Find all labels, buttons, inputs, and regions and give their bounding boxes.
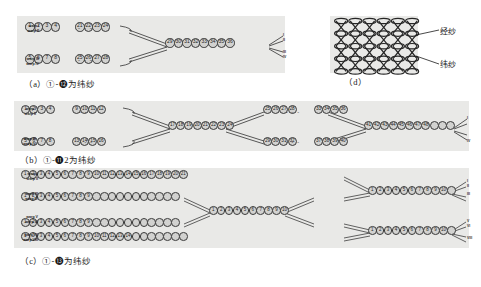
panel-a-end-label-2: II bbox=[283, 38, 285, 42]
panel-c-warp-label-3: warp III bbox=[17, 192, 38, 196]
panel-b-g1-bot-bead: 8 bbox=[46, 137, 55, 146]
panel-a-warp-label-4: warp IV bbox=[20, 62, 39, 66]
panel-b-trunk-2-bead bbox=[446, 121, 455, 130]
panel-c-warp-label-5: warp V bbox=[17, 215, 38, 219]
panel-c-row-1-bead: 5 bbox=[53, 170, 62, 179]
panel-c-row-1-bead: 15 bbox=[132, 170, 141, 179]
panel-c-end-label-3: III bbox=[467, 192, 470, 196]
panel-b-g2-bot-bead: 16 bbox=[97, 137, 106, 146]
panel-b-end-label-1: I bbox=[467, 116, 468, 120]
panel-a-warp-label-2: warp II bbox=[20, 29, 39, 33]
panel-c-row-1-bead: 21 bbox=[179, 170, 188, 179]
panel-c-row-3-bead: 4 bbox=[45, 218, 54, 227]
panel-a-end-label-4: IV bbox=[283, 55, 286, 59]
warp-yarn-label: 经纱 bbox=[440, 25, 456, 36]
panel-c-trunk-mid-bead: 5 bbox=[241, 206, 250, 215]
panel-c-row-3-bead bbox=[132, 218, 141, 227]
panel-c-right-bot-bead: 4 bbox=[392, 226, 401, 235]
panel-c-row-1-bead: 4 bbox=[45, 170, 54, 179]
panel-c-row-2-bead bbox=[171, 192, 180, 201]
panel-a-caption: （a）①-⓬为纬纱 bbox=[24, 77, 95, 89]
panel-b-warp-label-3: warp III bbox=[17, 137, 36, 141]
weft-yarn-label: 纬纱 bbox=[440, 58, 456, 69]
panel-c-warp-label-2: warp II bbox=[17, 177, 38, 181]
panel-b-warp-label-4: warp IV bbox=[17, 142, 36, 146]
panel-c-row-3-bead bbox=[171, 218, 180, 227]
panel-c-diagram: 1234567891011121314151617181920211234567… bbox=[14, 168, 469, 248]
panel-c-end-label-1: I bbox=[467, 179, 468, 183]
panel-c-row-2-bead bbox=[124, 192, 133, 201]
panel-c-warp-label-8: warp VIII bbox=[17, 238, 38, 242]
panel-c-warp-label-6: warp VI bbox=[17, 220, 38, 224]
panel-b-g4-bot-bead: 40 bbox=[339, 137, 348, 146]
panel-a-ellipsis-bottom: - - - bbox=[78, 57, 93, 63]
panel-c-row-4-bead: 5 bbox=[53, 232, 62, 241]
panel-b-caption: （b）①-⓫2为纬纱 bbox=[20, 153, 96, 165]
panel-a-ellipsis-top: - - - bbox=[78, 25, 93, 31]
panel-b-g4-top-bead: 36 bbox=[339, 105, 348, 114]
panel-c-row-1-bead: 14 bbox=[124, 170, 133, 179]
panel-a-warp-label-3: warp III bbox=[20, 57, 39, 61]
panel-c-right-bot-bead: 5 bbox=[400, 226, 409, 235]
panel-c-row-4-bead bbox=[132, 232, 141, 241]
panel-a-end-label-3: III bbox=[283, 50, 286, 54]
panel-a-bottom-left-bead: 8 bbox=[51, 54, 61, 64]
panel-c-trunk-mid-bead: 4 bbox=[233, 206, 242, 215]
panel-c-row-4-bead: 14 bbox=[124, 232, 133, 241]
panel-c-row-2-bead: 4 bbox=[45, 192, 54, 201]
panel-c-end-label-6: VI bbox=[467, 224, 470, 228]
panel-c-end-label-8: VIII bbox=[467, 236, 472, 240]
panel-c-right-bot-bead bbox=[447, 226, 456, 235]
panel-a-top-left-bead: 4 bbox=[51, 22, 61, 32]
panel-c-end-label-5: V bbox=[467, 219, 469, 223]
panel-c-right-top-bead: 5 bbox=[400, 186, 409, 195]
panel-d-mesh-overlay bbox=[330, 16, 426, 76]
panel-b-ellipsis-1: - - - bbox=[79, 109, 93, 115]
panel-c-warp-label-1: warp I bbox=[17, 172, 38, 176]
panel-a-end-label-1: I bbox=[283, 33, 284, 37]
panel-b-end-label-4: IV bbox=[467, 139, 470, 143]
panel-c-warp-label-4: warp IV bbox=[17, 197, 38, 201]
panel-b-warp-label-1: warp I bbox=[17, 107, 36, 111]
panel-a-bottom-right-bead: 28 bbox=[101, 54, 111, 64]
panel-c-end-label-2: II bbox=[467, 184, 469, 188]
panel-c-row-3-bead: 5 bbox=[53, 218, 62, 227]
panel-b-g1-top-bead: 4 bbox=[46, 105, 55, 114]
panel-b-warp-label-2: warp II bbox=[17, 112, 36, 116]
panel-c-trunk-mid-bead: 10 bbox=[280, 206, 289, 215]
panel-c-right-top-bead: 4 bbox=[392, 186, 401, 195]
panel-b-ellipsis-2: - - - bbox=[79, 139, 93, 145]
panel-a-diagram: 1234212223245678252627282930313233343536 bbox=[17, 16, 285, 73]
panel-c-row-2-bead bbox=[132, 192, 141, 201]
panel-a-top-right-bead: 24 bbox=[101, 22, 111, 32]
panel-c-caption: （c）①-⓭为纬纱 bbox=[20, 254, 91, 266]
panel-d-caption: （d） bbox=[344, 75, 367, 87]
panel-b-g2-top-bead: 12 bbox=[97, 105, 106, 114]
panel-c-row-4-bead bbox=[179, 232, 188, 241]
panel-c-warp-label-7: warp VII bbox=[17, 233, 38, 237]
panel-a-warp-label-1: warp I bbox=[20, 24, 39, 28]
panel-c-row-3-bead bbox=[124, 218, 133, 227]
panel-b-ellipsis-3: - - - bbox=[286, 109, 300, 115]
panel-c-row-2-bead: 5 bbox=[53, 192, 62, 201]
panel-c-right-top-bead bbox=[447, 186, 456, 195]
panel-c-row-4-bead: 4 bbox=[45, 232, 54, 241]
panel-a-trunk-bead: 36 bbox=[225, 38, 235, 48]
panel-b-ellipsis-4: - - - bbox=[286, 139, 300, 145]
